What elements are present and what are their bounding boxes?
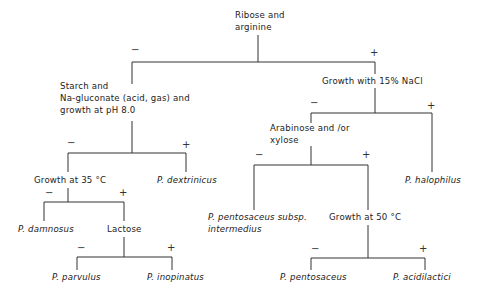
node-ribose-arginine: Ribose and arginine [235, 9, 285, 33]
negative-sign: − [255, 150, 263, 160]
node-label-line: growth at pH 8.0 [60, 104, 190, 116]
negative-sign: − [45, 188, 53, 198]
node-label-line: Starch and [60, 80, 190, 92]
species-inopinatus: P. inopinatus [147, 271, 204, 283]
node-label-line: xylose [270, 134, 350, 146]
node-lactose: Lactose [107, 223, 142, 235]
species-pentosaceus-intermedius: P. pentosaceus subsp. intermedius [208, 211, 307, 235]
node-growth-35c: Growth at 35 °C [34, 174, 106, 186]
negative-sign: − [310, 98, 318, 108]
node-label-line: intermedius [208, 223, 307, 235]
negative-sign: − [131, 45, 139, 55]
node-arabinose-xylose: Arabinose and /or xylose [270, 122, 350, 146]
node-label-line: arginine [235, 21, 285, 33]
species-halophilus: P. halophilus [405, 174, 461, 186]
species-acidilactici: P. acidilactici [393, 271, 451, 283]
positive-sign: + [419, 244, 427, 254]
species-parvulus: P. parvulus [52, 271, 101, 283]
identification-key-diagram: Ribose and arginine Starch and Na-glucon… [0, 0, 480, 296]
tree-connectors [0, 0, 480, 296]
positive-sign: + [119, 188, 127, 198]
positive-sign: + [370, 48, 378, 58]
species-dextrinicus: P. dextrinicus [157, 174, 217, 186]
negative-sign: − [77, 243, 85, 253]
node-starch-gluconate: Starch and Na-gluconate (acid, gas) and … [60, 80, 190, 116]
node-label-line: Ribose and [235, 9, 285, 21]
positive-sign: + [427, 101, 435, 111]
positive-sign: + [167, 243, 175, 253]
species-damnosus: P. damnosus [18, 223, 74, 235]
node-growth-nacl: Growth with 15% NaCl [322, 75, 423, 87]
node-label-line: Arabinose and /or [270, 122, 350, 134]
positive-sign: + [362, 150, 370, 160]
node-label-line: P. pentosaceus subsp. [208, 211, 307, 223]
node-growth-50c: Growth at 50 °C [329, 211, 401, 223]
species-pentosaceus: P. pentosaceus [280, 271, 347, 283]
node-label-line: Na-gluconate (acid, gas) and [60, 92, 190, 104]
positive-sign: + [182, 140, 190, 150]
negative-sign: − [311, 244, 319, 254]
negative-sign: − [67, 138, 75, 148]
